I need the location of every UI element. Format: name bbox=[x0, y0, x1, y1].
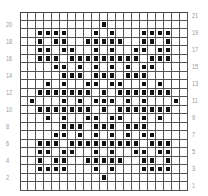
filled-stitch-cell bbox=[124, 140, 132, 149]
empty-stitch-cell bbox=[52, 80, 60, 89]
filled-stitch-cell bbox=[92, 80, 100, 89]
filled-stitch-cell bbox=[164, 157, 172, 166]
empty-stitch-cell bbox=[172, 131, 180, 140]
filled-stitch-cell bbox=[156, 148, 164, 157]
empty-stitch-cell bbox=[100, 29, 108, 38]
filled-stitch-cell bbox=[164, 148, 172, 157]
empty-stitch-cell bbox=[180, 131, 188, 140]
empty-stitch-cell bbox=[132, 29, 140, 38]
empty-stitch-cell bbox=[84, 46, 92, 55]
chart-row-11 bbox=[21, 97, 189, 106]
filled-stitch-cell bbox=[108, 114, 116, 123]
filled-stitch-cell bbox=[60, 148, 68, 157]
empty-stitch-cell bbox=[68, 29, 76, 38]
empty-stitch-cell bbox=[76, 182, 84, 191]
filled-stitch-cell bbox=[92, 157, 100, 166]
empty-stitch-cell bbox=[76, 148, 84, 157]
filled-stitch-cell bbox=[116, 55, 124, 64]
empty-stitch-cell bbox=[20, 46, 28, 55]
empty-stitch-cell bbox=[180, 29, 188, 38]
filled-stitch-cell bbox=[92, 38, 100, 47]
empty-stitch-cell bbox=[20, 12, 28, 21]
empty-stitch-cell bbox=[148, 182, 156, 191]
chart-row-21 bbox=[21, 12, 189, 21]
empty-stitch-cell bbox=[68, 114, 76, 123]
filled-stitch-cell bbox=[60, 38, 68, 47]
row-number-label: 12 bbox=[6, 89, 12, 97]
filled-stitch-cell bbox=[44, 46, 52, 55]
filled-stitch-cell bbox=[132, 89, 140, 98]
filled-stitch-cell bbox=[36, 46, 44, 55]
empty-stitch-cell bbox=[28, 148, 36, 157]
empty-stitch-cell bbox=[28, 38, 36, 47]
chart-row-18 bbox=[21, 38, 189, 47]
empty-stitch-cell bbox=[180, 140, 188, 149]
empty-stitch-cell bbox=[180, 72, 188, 81]
filled-stitch-cell bbox=[92, 148, 100, 157]
empty-stitch-cell bbox=[164, 72, 172, 81]
empty-stitch-cell bbox=[156, 63, 164, 72]
empty-stitch-cell bbox=[84, 72, 92, 81]
empty-stitch-cell bbox=[172, 89, 180, 98]
filled-stitch-cell bbox=[140, 97, 148, 106]
empty-stitch-cell bbox=[172, 123, 180, 132]
empty-stitch-cell bbox=[132, 97, 140, 106]
empty-stitch-cell bbox=[20, 182, 28, 191]
filled-stitch-cell bbox=[132, 106, 140, 115]
filled-stitch-cell bbox=[36, 157, 44, 166]
empty-stitch-cell bbox=[132, 63, 140, 72]
filled-stitch-cell bbox=[100, 21, 108, 30]
empty-stitch-cell bbox=[124, 38, 132, 47]
empty-stitch-cell bbox=[180, 157, 188, 166]
chart-row-9 bbox=[21, 114, 189, 123]
filled-stitch-cell bbox=[84, 157, 92, 166]
filled-stitch-cell bbox=[108, 80, 116, 89]
filled-stitch-cell bbox=[148, 165, 156, 174]
empty-stitch-cell bbox=[44, 63, 52, 72]
empty-stitch-cell bbox=[68, 157, 76, 166]
empty-stitch-cell bbox=[180, 89, 188, 98]
filled-stitch-cell bbox=[92, 140, 100, 149]
empty-stitch-cell bbox=[92, 21, 100, 30]
filled-stitch-cell bbox=[36, 29, 44, 38]
empty-stitch-cell bbox=[164, 114, 172, 123]
filled-stitch-cell bbox=[148, 157, 156, 166]
filled-stitch-cell bbox=[44, 89, 52, 98]
filled-stitch-cell bbox=[148, 89, 156, 98]
filled-stitch-cell bbox=[116, 106, 124, 115]
filled-stitch-cell bbox=[92, 46, 100, 55]
empty-stitch-cell bbox=[132, 165, 140, 174]
empty-stitch-cell bbox=[100, 63, 108, 72]
empty-stitch-cell bbox=[84, 21, 92, 30]
filled-stitch-cell bbox=[100, 97, 108, 106]
empty-stitch-cell bbox=[44, 21, 52, 30]
empty-stitch-cell bbox=[76, 114, 84, 123]
filled-stitch-cell bbox=[76, 97, 84, 106]
filled-stitch-cell bbox=[124, 97, 132, 106]
filled-stitch-cell bbox=[108, 38, 116, 47]
empty-stitch-cell bbox=[100, 80, 108, 89]
filled-stitch-cell bbox=[140, 165, 148, 174]
empty-stitch-cell bbox=[20, 140, 28, 149]
empty-stitch-cell bbox=[108, 182, 116, 191]
row-number-label: 6 bbox=[6, 140, 9, 148]
empty-stitch-cell bbox=[116, 72, 124, 81]
empty-stitch-cell bbox=[52, 97, 60, 106]
empty-stitch-cell bbox=[124, 21, 132, 30]
empty-stitch-cell bbox=[36, 123, 44, 132]
filled-stitch-cell bbox=[52, 29, 60, 38]
filled-stitch-cell bbox=[108, 123, 116, 132]
empty-stitch-cell bbox=[148, 174, 156, 183]
empty-stitch-cell bbox=[148, 12, 156, 21]
filled-stitch-cell bbox=[92, 72, 100, 81]
empty-stitch-cell bbox=[20, 114, 28, 123]
empty-stitch-cell bbox=[156, 182, 164, 191]
chart-row-8 bbox=[21, 123, 189, 132]
empty-stitch-cell bbox=[28, 63, 36, 72]
filled-stitch-cell bbox=[84, 80, 92, 89]
empty-stitch-cell bbox=[76, 21, 84, 30]
filled-stitch-cell bbox=[156, 29, 164, 38]
filled-stitch-cell bbox=[164, 165, 172, 174]
filled-stitch-cell bbox=[76, 106, 84, 115]
chart-row-19 bbox=[21, 29, 189, 38]
